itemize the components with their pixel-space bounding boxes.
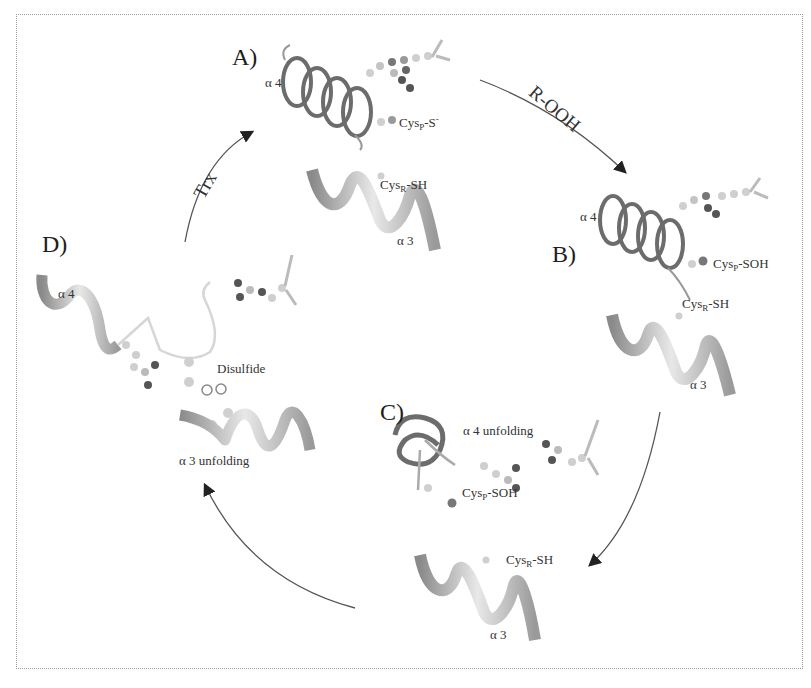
helix-alpha4-ribbon bbox=[42, 275, 118, 349]
panel-c-structure bbox=[395, 417, 598, 640]
helix-alpha4-coil bbox=[283, 58, 371, 136]
side-chain-atoms bbox=[679, 178, 768, 218]
cys-p-atom bbox=[424, 484, 432, 492]
panel-b-alpha4-label: α 4 bbox=[580, 210, 597, 223]
panel-label-b: B) bbox=[552, 242, 576, 266]
panel-d-alpha3-unfolding-label: α 3 unfolding bbox=[179, 454, 249, 467]
panel-a-cys-r-label: CysR-SH bbox=[380, 178, 427, 194]
cys-p-atom bbox=[688, 260, 696, 268]
cys-p-sulfur bbox=[699, 257, 708, 266]
panel-b-structure bbox=[600, 178, 768, 395]
catalytic-cycle-diagram bbox=[0, 0, 811, 688]
panel-label-c: C) bbox=[380, 400, 404, 424]
side-chain-atoms bbox=[122, 255, 296, 389]
panel-d-structure bbox=[42, 255, 310, 450]
panel-b-cys-r-label: CysR-SH bbox=[682, 297, 729, 313]
panel-c-cys-r-label: CysR-SH bbox=[506, 553, 553, 569]
cys-p-atom bbox=[377, 118, 385, 126]
panel-a-alpha3-label: α 3 bbox=[397, 234, 414, 247]
panel-a-structure bbox=[283, 40, 450, 250]
cys-p-sulfur bbox=[448, 499, 457, 508]
panel-b-cys-p-label: CysP-SOH bbox=[713, 257, 769, 273]
cys-r-atom bbox=[483, 557, 490, 564]
cys-r-atom bbox=[676, 313, 683, 320]
panel-d-disulfide-label: Disulfide bbox=[217, 362, 265, 375]
arrow-b-to-c bbox=[590, 412, 660, 565]
cys-p-sulfur bbox=[388, 116, 396, 124]
panel-c-cys-p-label: CysP-SOH bbox=[462, 486, 518, 502]
panel-a-cys-p-label: CysP-S- bbox=[399, 115, 439, 132]
helix-alpha4-coil bbox=[600, 196, 683, 268]
helix-alpha3-ribbon bbox=[612, 315, 730, 395]
panel-c-alpha3-label: α 3 bbox=[490, 628, 507, 641]
panel-d-alpha4-label: α 4 bbox=[58, 287, 75, 300]
panel-a-alpha4-label: α 4 bbox=[265, 76, 282, 89]
helix-alpha3-ribbon bbox=[180, 412, 310, 450]
side-chain-atoms bbox=[366, 40, 450, 92]
panel-label-a: A) bbox=[232, 45, 257, 69]
panel-label-d: D) bbox=[42, 232, 67, 256]
loop-backbone bbox=[118, 282, 215, 358]
arrow-c-to-d bbox=[205, 485, 355, 608]
panel-c-alpha4-unfolding-label: α 4 unfolding bbox=[463, 424, 533, 437]
panel-b-alpha3-label: α 3 bbox=[690, 378, 707, 391]
